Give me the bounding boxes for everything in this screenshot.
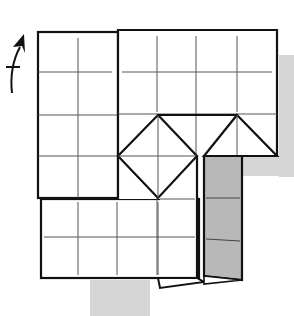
- origami-diagram: Origami folding step: [0, 0, 294, 316]
- diagram-canvas: [0, 0, 294, 316]
- left-upper-panel: [38, 32, 118, 198]
- shaded-flap: [204, 156, 242, 284]
- curved-fold-arrow-icon: [6, 34, 25, 93]
